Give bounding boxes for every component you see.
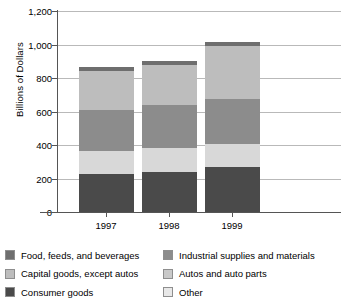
bar-segment[interactable] (205, 144, 260, 167)
bar-segment[interactable] (205, 46, 260, 99)
bar-segment[interactable] (142, 172, 197, 212)
legend-item[interactable]: Capital goods, except autos (5, 265, 139, 284)
y-axis-line (57, 10, 58, 213)
bar-segment[interactable] (79, 151, 134, 174)
y-axis-tick-labels: 02004006008001,0001,200 (0, 11, 52, 212)
legend-column-right: Industrial supplies and materialsAutos a… (163, 246, 315, 302)
bar-segment[interactable] (205, 99, 260, 144)
bar-segment[interactable] (79, 110, 134, 151)
bar-segment[interactable] (142, 65, 197, 106)
legend-item-label: Other (179, 288, 203, 298)
legend-swatch-icon (5, 287, 15, 297)
bar-stack[interactable] (205, 11, 260, 212)
legend-swatch-icon (5, 250, 15, 260)
x-axis-tick-label: 1999 (221, 220, 242, 231)
x-axis-tick-label: 1998 (158, 220, 179, 231)
legend-item-label: Consumer goods (21, 288, 93, 298)
legend-item-label: Industrial supplies and materials (179, 251, 315, 261)
x-axis-line (40, 212, 341, 213)
y-axis-tick-label: 1,200 (28, 6, 52, 17)
bar-segment[interactable] (79, 71, 134, 110)
x-axis-tick-label: 1997 (95, 220, 116, 231)
y-axis-tick-label: 200 (36, 173, 52, 184)
x-axis-tick (106, 212, 107, 217)
legend-swatch-icon (163, 250, 173, 260)
legend-item-label: Food, feeds, and beverages (21, 251, 139, 261)
y-axis-tick-label: 1,000 (28, 39, 52, 50)
bar-segment[interactable] (205, 167, 260, 212)
legend-item-label: Capital goods, except autos (21, 269, 138, 279)
legend-item-label: Autos and auto parts (179, 269, 267, 279)
y-axis-tick-label: 400 (36, 140, 52, 151)
legend-swatch-icon (5, 269, 15, 279)
bar-stack[interactable] (79, 11, 134, 212)
y-axis-tick-label: 600 (36, 106, 52, 117)
chart-legend: Food, feeds, and beveragesCapital goods,… (0, 246, 351, 302)
legend-item[interactable]: Other (163, 283, 315, 302)
bar-segment[interactable] (79, 174, 134, 212)
bar-segment[interactable] (205, 42, 260, 46)
y-axis-tick-label: 800 (36, 73, 52, 84)
bar-segment[interactable] (142, 61, 197, 65)
chart-page: Billions of Dollars 02004006008001,0001,… (0, 0, 351, 308)
bar-segment[interactable] (142, 148, 197, 171)
x-axis-tick (169, 212, 170, 217)
legend-item[interactable]: Food, feeds, and beverages (5, 246, 139, 265)
legend-swatch-icon (163, 287, 173, 297)
bar-segment[interactable] (142, 105, 197, 148)
legend-item[interactable]: Consumer goods (5, 283, 139, 302)
legend-item[interactable]: Industrial supplies and materials (163, 246, 315, 265)
legend-column-left: Food, feeds, and beveragesCapital goods,… (5, 246, 139, 302)
bar-stack[interactable] (142, 11, 197, 212)
legend-item[interactable]: Autos and auto parts (163, 265, 315, 284)
plot-region (57, 11, 341, 212)
x-axis-tick (232, 212, 233, 217)
legend-swatch-icon (163, 269, 173, 279)
bar-segment[interactable] (79, 67, 134, 71)
chart-area: Billions of Dollars 02004006008001,0001,… (0, 0, 351, 240)
